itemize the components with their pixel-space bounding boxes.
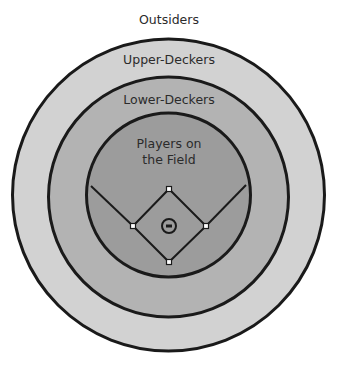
- players-label-line1: Players on: [137, 136, 202, 151]
- third-base-icon: [131, 224, 136, 229]
- lower-deckers-label: Lower-Deckers: [123, 92, 214, 107]
- fan-circles-diagram: Outsiders Upper-Deckers Lower-Deckers Pl…: [0, 0, 339, 370]
- upper-deckers-label: Upper-Deckers: [123, 52, 215, 67]
- outsiders-label: Outsiders: [139, 12, 199, 27]
- second-base-icon: [167, 187, 172, 192]
- pitchers-rubber-icon: [166, 225, 172, 228]
- players-label-line2: the Field: [142, 152, 195, 167]
- home-plate-icon: [167, 260, 172, 265]
- first-base-icon: [204, 224, 209, 229]
